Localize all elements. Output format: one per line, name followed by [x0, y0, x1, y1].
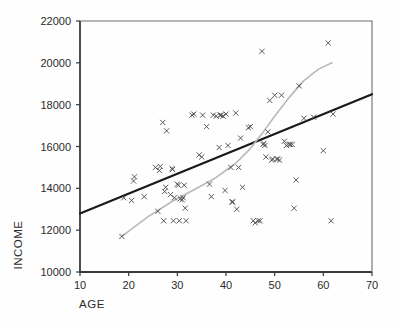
data-point-marker [153, 165, 158, 170]
data-point-marker [164, 128, 169, 133]
tick-group: 1000012000140001600018000200002200010203… [40, 15, 378, 291]
data-point-marker [183, 206, 188, 211]
data-point-marker [119, 234, 124, 239]
x-tick-label: 20 [123, 279, 135, 291]
data-point-marker [238, 136, 243, 141]
data-point-marker [267, 98, 272, 103]
data-point-marker [142, 194, 147, 199]
data-point-marker [217, 145, 222, 150]
data-point-marker [259, 49, 264, 54]
data-point-marker [229, 199, 234, 204]
data-point-marker [129, 198, 134, 203]
data-point-marker [191, 111, 196, 116]
data-point-marker [234, 207, 239, 212]
data-point-marker [240, 185, 245, 190]
chart-canvas: 1000012000140001600018000200002200010203… [0, 0, 394, 327]
y-tick-label: 14000 [40, 182, 71, 194]
data-point-marker [321, 148, 326, 153]
data-point-marker [207, 182, 212, 187]
data-point-marker [200, 113, 205, 118]
y-tick-label: 18000 [40, 99, 71, 111]
data-point-marker [199, 154, 204, 159]
fit-line-linear-fit [80, 94, 372, 213]
data-point-marker [263, 154, 268, 159]
data-point-marker [246, 125, 251, 130]
data-points-group [119, 40, 335, 239]
y-axis-title: INCOME [12, 221, 24, 270]
x-axis-title: AGE [79, 298, 105, 310]
y-tick-label: 12000 [40, 224, 71, 236]
x-tick-label: 50 [269, 279, 281, 291]
data-point-marker [163, 185, 168, 190]
data-point-marker [292, 206, 297, 211]
data-point-marker [182, 183, 187, 188]
data-point-marker [161, 218, 166, 223]
y-tick-label: 20000 [40, 57, 71, 69]
data-point-marker [236, 165, 241, 170]
data-point-marker [330, 111, 335, 116]
data-point-marker [329, 218, 334, 223]
y-tick-label: 22000 [40, 15, 71, 27]
data-point-marker [248, 124, 253, 129]
data-point-marker [189, 113, 194, 118]
data-point-marker [279, 93, 284, 98]
data-point-marker [272, 93, 277, 98]
data-point-marker [262, 143, 267, 148]
data-point-marker [222, 188, 227, 193]
data-point-marker [301, 116, 306, 121]
data-point-marker [233, 110, 238, 115]
scatter-chart-figure: 1000012000140001600018000200002200010203… [0, 0, 394, 327]
data-point-marker [132, 174, 137, 179]
data-point-marker [230, 199, 235, 204]
data-point-marker [171, 218, 176, 223]
data-point-marker [160, 120, 165, 125]
fit-line-smoothed-fit [122, 63, 332, 237]
data-point-marker [177, 218, 182, 223]
data-point-marker [293, 177, 298, 182]
data-point-marker [204, 124, 209, 129]
data-point-marker [219, 113, 224, 118]
data-point-marker [296, 83, 301, 88]
x-tick-label: 70 [366, 279, 378, 291]
fit-lines-group [80, 63, 372, 237]
data-point-marker [158, 164, 163, 169]
x-tick-label: 30 [171, 279, 183, 291]
data-point-marker [209, 194, 214, 199]
x-tick-label: 60 [317, 279, 329, 291]
data-point-marker [223, 111, 228, 116]
data-point-marker [225, 143, 230, 148]
data-point-marker [326, 40, 331, 45]
x-tick-label: 10 [74, 279, 86, 291]
x-tick-label: 40 [220, 279, 232, 291]
data-point-marker [168, 192, 173, 197]
y-tick-label: 16000 [40, 141, 71, 153]
data-point-marker [253, 220, 258, 225]
data-point-marker [265, 129, 270, 134]
data-point-marker [183, 218, 188, 223]
data-point-marker [275, 156, 280, 161]
y-tick-label: 10000 [40, 266, 71, 278]
